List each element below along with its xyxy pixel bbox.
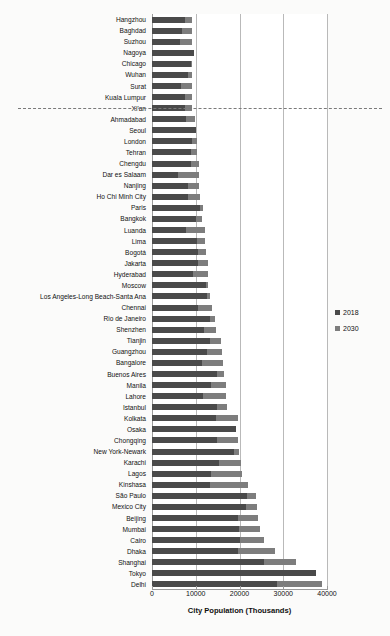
bar-row [152, 114, 327, 125]
x-axis-ticks: 010000200003000040000 [152, 590, 327, 602]
bar-row [152, 568, 327, 579]
bar-segment-2018 [152, 482, 210, 488]
bar-segment-2018 [152, 570, 316, 576]
category-label: São Paulo [116, 492, 146, 499]
bar-segment-2018 [152, 50, 194, 56]
bar-segment-2018 [152, 172, 178, 178]
bar-segment-2018 [152, 504, 246, 510]
bar-row [152, 468, 327, 479]
bar-segment-2018 [152, 227, 186, 233]
bar-segment-2018 [152, 116, 186, 122]
plot-area [152, 14, 327, 590]
category-axis-labels: HangzhouBaghdadSuzhouNagoyaChicagoWuhanS… [0, 14, 150, 590]
bar-segment-2018 [152, 305, 198, 311]
category-label: Delhi [131, 581, 146, 588]
category-label: London [124, 138, 146, 145]
category-label: Chengdu [119, 160, 146, 167]
category-label: Chongqing [114, 437, 146, 444]
bar-row [152, 202, 327, 213]
bar-segment-2018 [152, 83, 181, 89]
category-label: Tianjin [127, 337, 146, 344]
category-label: Ho Chi Minh City [97, 193, 146, 200]
x-tick-label: 20000 [230, 590, 249, 597]
bar-row [152, 80, 327, 91]
bar-row [152, 247, 327, 258]
bar-segment-2018 [152, 493, 247, 499]
gridline [327, 14, 328, 590]
bar-row [152, 402, 327, 413]
bar-row [152, 69, 327, 80]
category-label: Moscow [122, 282, 146, 289]
x-axis-title: City Population (Thousands) [152, 606, 327, 615]
bar-segment-2018 [152, 338, 210, 344]
bar-segment-2018 [152, 371, 217, 377]
bar-segment-2018 [152, 526, 239, 532]
bar-row [152, 446, 327, 457]
bar-row [152, 391, 327, 402]
bar-segment-2018 [152, 537, 240, 543]
bar-row [152, 125, 327, 136]
bar-segment-2018 [152, 17, 185, 23]
bar-row [152, 457, 327, 468]
bar-segment-2018 [152, 437, 217, 443]
bar-row [152, 180, 327, 191]
category-label: Hangzhou [116, 16, 146, 23]
legend-swatch-icon [335, 326, 340, 331]
legend-label: 2030 [343, 325, 359, 332]
category-label: Baghdad [120, 27, 146, 34]
category-label: Kinshasa [119, 481, 146, 488]
category-label: Mexico City [112, 503, 146, 510]
category-label: Chennai [121, 304, 146, 311]
legend-item[interactable]: 2018 [335, 309, 359, 316]
category-label: Guangzhou [112, 348, 146, 355]
bar-segment-2018 [152, 238, 197, 244]
bar-segment-2018 [152, 327, 204, 333]
category-label: Suzhou [124, 38, 146, 45]
category-label: Hyderabad [114, 271, 146, 278]
bar-row [152, 346, 327, 357]
category-label: Jakarta [124, 260, 146, 267]
bar-segment-2018 [152, 183, 188, 189]
bar-segment-2018 [152, 216, 196, 222]
bar-segment-2018 [152, 161, 191, 167]
bar-row [152, 258, 327, 269]
bar-row [152, 269, 327, 280]
bar-row [152, 191, 327, 202]
category-label: Kolkata [124, 415, 146, 422]
category-label: Shanghai [118, 559, 146, 566]
bar-segment-2018 [152, 205, 200, 211]
bar-row [152, 236, 327, 247]
bar-row [152, 47, 327, 58]
category-label: Dar es Salaam [102, 171, 146, 178]
bar-row [152, 335, 327, 346]
x-tick-label: 0 [150, 590, 154, 597]
category-label: Chicago [122, 60, 146, 67]
bar-row [152, 435, 327, 446]
bar-row [152, 25, 327, 36]
category-label: Seoul [129, 127, 146, 134]
bar-row [152, 136, 327, 147]
category-label: Los Angeles-Long Beach-Santa Ana [40, 293, 146, 300]
bar-row [152, 291, 327, 302]
bar-row [152, 357, 327, 368]
bar-segment-2018 [152, 581, 277, 587]
bar-segment-2018 [152, 515, 238, 521]
legend-swatch-icon [335, 310, 340, 315]
category-label: Ahmadabad [110, 116, 146, 123]
bar-segment-2018 [152, 360, 202, 366]
bar-segment-2018 [152, 293, 207, 299]
bar-row [152, 490, 327, 501]
bar-segment-2018 [152, 449, 234, 455]
bar-row [152, 380, 327, 391]
bar-row [152, 557, 327, 568]
legend: 20182030 [335, 309, 359, 341]
bar-segment-2018 [152, 28, 182, 34]
bar-row [152, 92, 327, 103]
bar-segment-2018 [152, 460, 219, 466]
bar-row [152, 14, 327, 25]
legend-item[interactable]: 2030 [335, 325, 359, 332]
bar-segment-2018 [152, 94, 185, 100]
category-label: Nagoya [123, 49, 146, 56]
x-tick-label: 10000 [186, 590, 205, 597]
bar-row [152, 524, 327, 535]
